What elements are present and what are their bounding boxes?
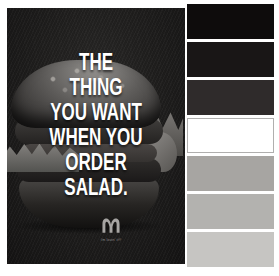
swatch-6 [187, 194, 274, 229]
swatch-3 [187, 80, 274, 115]
swatch-5 [187, 156, 274, 191]
swatch-2 [187, 42, 274, 77]
advertisement-image: THETHINGYOU WANTWHEN YOUORDERSALAD. i'm … [7, 8, 185, 264]
swatch-7 [187, 232, 274, 267]
headline-line: SALAD. [30, 175, 162, 200]
tagline-text: i'm lovin' it® [67, 238, 156, 242]
headline-line: THE [30, 50, 162, 75]
headline-line: WHEN YOU [30, 125, 162, 150]
headline-line: ORDER [30, 150, 162, 175]
headline: THETHINGYOU WANTWHEN YOUORDERSALAD. [30, 50, 162, 200]
headline-line: YOU WANT [30, 100, 162, 125]
swatch-1 [187, 4, 274, 39]
palette-column [187, 4, 274, 267]
ad-collage: THETHINGYOU WANTWHEN YOUORDERSALAD. i'm … [0, 0, 279, 276]
brand-block: i'm lovin' it® [7, 218, 185, 244]
headline-line: THING [30, 75, 162, 100]
mcdonalds-arches-icon [102, 218, 120, 237]
swatch-4 [187, 118, 274, 153]
